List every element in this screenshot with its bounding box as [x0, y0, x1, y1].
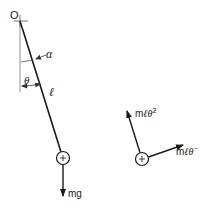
centripetal-exponent: 2	[152, 107, 156, 114]
tangential-theta-ddot: θ̈	[189, 146, 194, 157]
length-label: ℓ	[49, 86, 54, 98]
centripetal-force-label: mℓθ̇2	[135, 107, 156, 119]
pivot-label: O	[10, 10, 19, 21]
pendulum-rod	[20, 21, 61, 152]
bob-left	[57, 152, 70, 165]
alpha-label: α	[46, 48, 52, 60]
bob-right	[136, 153, 149, 166]
theta-label: θ	[24, 75, 29, 86]
gravity-label: mg	[68, 189, 82, 199]
pendulum-diagram	[0, 0, 211, 210]
alpha-arrow	[36, 55, 46, 59]
tangential-force-label: mℓθ̈	[176, 147, 193, 157]
alpha-tick	[21, 60, 33, 62]
